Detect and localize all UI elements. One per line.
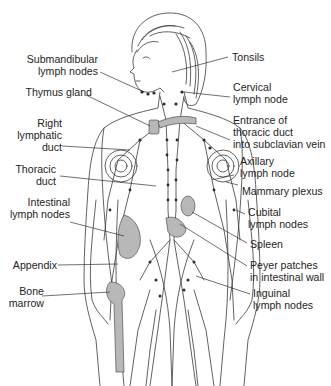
spleen [181, 196, 195, 216]
intestines [118, 215, 140, 258]
label-right-lymphatic-duct: Right lymphatic duct [4, 117, 62, 153]
face [130, 50, 164, 92]
bone-marrow [107, 282, 125, 372]
label-peyer-patches: Peyer patches in intestinal wall [250, 259, 324, 283]
label-mammary-plexus: Mammary plexus [242, 185, 323, 197]
label-cervical-lymph-node: Cervical lymph node [233, 81, 288, 105]
mammary-plexus [105, 150, 239, 182]
label-appendix: Appendix [4, 259, 57, 271]
label-intestinal-lymph-nodes: Intestinal lymph nodes [4, 196, 70, 220]
thymus [149, 120, 159, 134]
peyer-patches [166, 217, 186, 237]
label-thymus-gland: Thymus gland [4, 86, 92, 98]
label-axillary-lymph-node: Axillary lymph node [240, 155, 295, 179]
label-inguinal-lymph-nodes: Inguinal lymph nodes [253, 287, 313, 311]
label-tonsils: Tonsils [232, 51, 264, 63]
label-spleen: Spleen [250, 238, 283, 250]
label-thoracic-duct-entrance: Entrance of thoracic duct into subclavia… [233, 114, 325, 150]
label-cubital-lymph-nodes: Cubital lymph nodes [248, 206, 308, 230]
subclavian-vein [158, 116, 196, 128]
label-bone-marrow: Bone marrow [4, 285, 44, 309]
label-submandibular-lymph-nodes: Submandibular lymph nodes [4, 53, 98, 77]
label-thoracic-duct: Thoracic duct [4, 163, 56, 187]
